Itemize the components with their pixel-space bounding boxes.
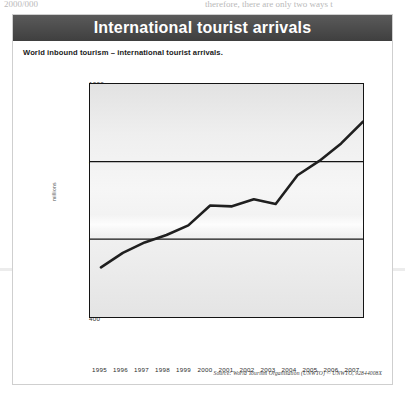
page-surrounding-text: 2000/000 therefore, there are only two w… [0, 0, 405, 11]
x-tick-1997: 1997 [134, 366, 149, 373]
x-tick-1998: 1998 [155, 366, 170, 373]
series-line-international-tourist-arrivals [101, 122, 363, 268]
plot-area [89, 83, 364, 318]
page-text-right: therefore, there are only two ways t [205, 0, 333, 10]
figure-subtitle: World inbound tourism – international to… [23, 48, 223, 57]
page-root: 2000/000 therefore, there are only two w… [0, 0, 405, 399]
x-tick-2000: 2000 [198, 366, 213, 373]
x-tick-1999: 1999 [176, 366, 191, 373]
chart: millions 1000 800 600 400 1995 1996 1997… [65, 83, 385, 361]
figure-title: International tourist arrivals [13, 15, 392, 41]
series-svg [90, 84, 363, 317]
figure-container: International tourist arrivals World inb… [12, 14, 393, 385]
page-text-left: 2000/000 [4, 0, 38, 10]
source-note: Source: World Tourism Organisation (UNWT… [214, 370, 382, 376]
x-tick-1996: 1996 [113, 366, 128, 373]
x-tick-1995: 1995 [92, 366, 107, 373]
y-axis-label: millions [51, 182, 57, 201]
